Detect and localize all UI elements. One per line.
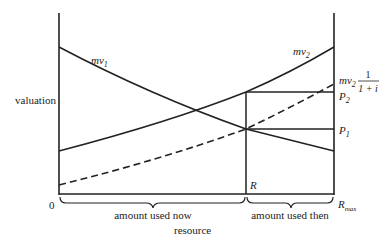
brace-now xyxy=(60,197,245,208)
resource-allocation-diagram: valuation 0 resource mv1 mv2 mv2 1 1 + i… xyxy=(0,0,391,248)
p2-label: P2 xyxy=(338,90,350,105)
mv2-discounted-curve xyxy=(59,84,334,185)
rmax-label: Rmax xyxy=(337,198,357,213)
mv2-label: mv2 xyxy=(293,45,310,60)
y-axis-label: valuation xyxy=(15,94,56,106)
mv2-discounted-label: mv2 xyxy=(339,74,356,89)
origin-label: 0 xyxy=(49,199,55,211)
p1-label: P1 xyxy=(338,124,350,139)
discount-fraction-denominator: 1 + i xyxy=(358,83,378,94)
brace-now-label: amount used now xyxy=(114,209,192,221)
brace-then-label: amount used then xyxy=(251,209,329,221)
x-axis-label: resource xyxy=(174,224,211,236)
r-label: R xyxy=(249,179,257,191)
brace-then xyxy=(247,197,333,208)
discount-fraction-numerator: 1 xyxy=(366,69,371,80)
